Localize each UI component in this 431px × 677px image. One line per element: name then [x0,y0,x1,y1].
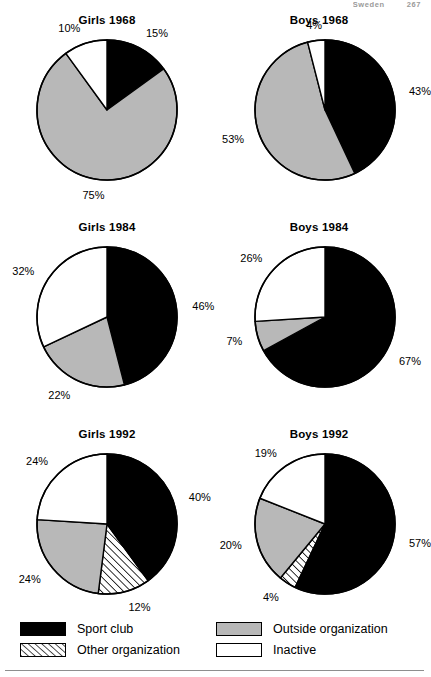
pie-slice-label: 4% [263,591,279,603]
pie-slice-label: 24% [19,573,41,585]
legend-item-sport-club: Sport club [20,621,133,636]
pie-canvas: 15%75%10% [31,34,183,186]
pie-slice-label: 20% [220,539,242,551]
pie-slice-label: 4% [306,19,322,31]
pie-slice-label: 22% [48,389,70,401]
pie-title: Boys 1992 [212,428,426,440]
running-header: Sweden 267 [353,0,421,7]
pie-chart-grid: Girls 196815%75%10%Boys 196843%53%4%Girl… [0,8,429,612]
legend-label-outside-organization: Outside organization [273,622,388,636]
legend-label-sport-club: Sport club [77,622,133,636]
legend-label-inactive: Inactive [273,643,316,657]
pie-slice-label: 7% [227,335,243,347]
pie-slice-label: 32% [12,265,34,277]
pie-slice-label: 12% [128,601,150,613]
pie-slice-label: 53% [222,133,244,145]
pie-slice-label: 10% [58,22,80,34]
pie-slice-label: 43% [409,85,431,97]
pie-chart-girls-1968: Girls 196815%75%10% [0,8,214,213]
footer-rule [5,670,424,671]
pie-canvas: 40%12%24%24% [31,448,183,600]
pie-canvas: 43%53%4% [249,34,401,186]
pie-slice-label: 57% [409,537,431,549]
pie-slice-label: 67% [399,355,421,367]
legend-item-outside-organization: Outside organization [216,621,388,636]
legend-item-inactive: Inactive [216,642,316,657]
pie-chart-boys-1984: Boys 198467%7%26% [212,215,426,420]
header-page-number: 267 [407,0,421,7]
pie-slice [255,247,325,321]
pie-canvas: 67%7%26% [249,241,401,393]
legend-item-other-organization: Other organization [20,642,180,657]
legend-label-other-organization: Other organization [77,643,180,657]
pie-chart-girls-1992: Girls 199240%12%24%24% [0,422,214,627]
pie-slice-label: 26% [240,252,262,264]
pie-title: Boys 1984 [212,221,426,233]
header-country: Sweden [353,0,385,7]
pie-title: Girls 1968 [0,14,214,26]
legend: Sport club Outside organization Other or… [20,620,416,664]
hatch-pattern-icon [21,644,65,656]
pie-canvas: 46%22%32% [31,241,183,393]
pie-slice-label: 75% [82,189,104,201]
pie-slice-label: 15% [146,27,168,39]
pie-title: Girls 1984 [0,221,214,233]
pie-slice-label: 40% [189,491,211,503]
pie-chart-girls-1984: Girls 198446%22%32% [0,215,214,420]
pie-slice-label: 19% [255,447,277,459]
pie-chart-boys-1968: Boys 196843%53%4% [212,8,426,213]
pie-title: Girls 1992 [0,428,214,440]
pie-canvas: 57%4%20%19% [249,448,401,600]
header-separator [387,0,404,7]
legend-swatch-outside-organization [216,622,262,636]
legend-swatch-other-organization [20,643,66,657]
pie-chart-boys-1992: Boys 199257%4%20%19% [212,422,426,627]
legend-swatch-inactive [216,643,262,657]
legend-swatch-sport-club [20,622,66,636]
pie-slice [37,520,107,594]
pie-slice-label: 24% [26,455,48,467]
